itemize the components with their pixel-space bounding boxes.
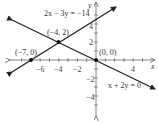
tick-x-neg2: −2 xyxy=(73,65,82,74)
tick-x-neg6: −6 xyxy=(36,65,45,74)
graph: −6 −4 −2 4 4 2 −2 −4 x y 2x − 3y = −14 x… xyxy=(0,0,158,123)
equation-label-2: x + 2y = 0 xyxy=(108,81,141,90)
point-neg4-2 xyxy=(57,40,61,44)
point-neg7-0 xyxy=(29,58,33,62)
tick-y-4: 4 xyxy=(89,22,93,31)
tick-x-neg4: −4 xyxy=(54,65,63,74)
point-label-origin: (0, 0) xyxy=(99,48,117,57)
point-origin xyxy=(94,58,98,62)
tick-y-2: 2 xyxy=(89,38,93,47)
point-label-neg4-2: (−4, 2) xyxy=(47,28,69,37)
point-label-neg7-0: (−7, 0) xyxy=(15,48,37,57)
x-axis-label: x xyxy=(150,62,155,71)
equation-label-1: 2x − 3y = −14 xyxy=(44,9,90,18)
tick-x-4: 4 xyxy=(131,65,135,74)
tick-y-neg2: −2 xyxy=(86,75,95,84)
tick-y-neg4: −4 xyxy=(86,93,95,102)
